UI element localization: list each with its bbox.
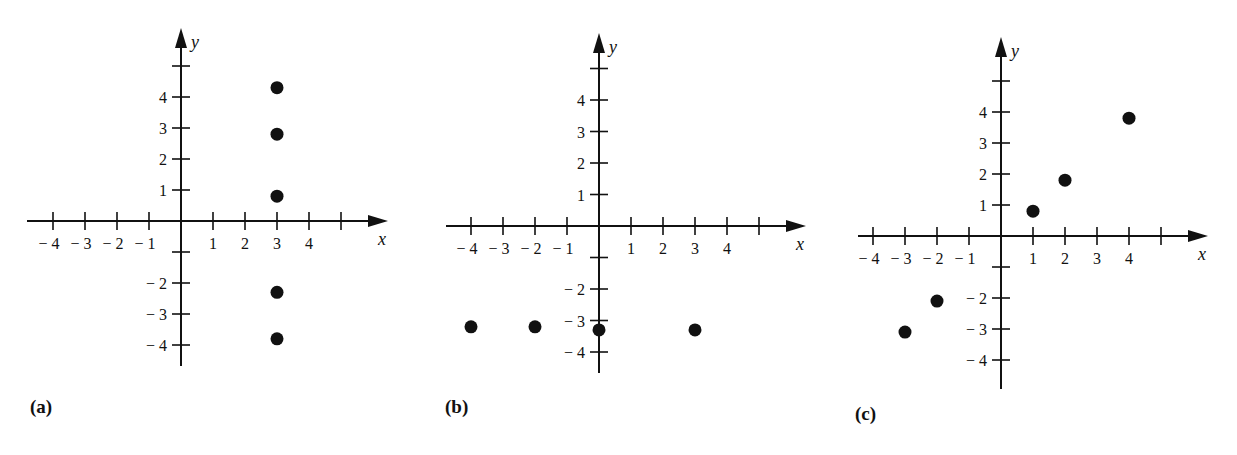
y-tick-label: 1 [159, 182, 167, 199]
y-axis-arrow-icon [995, 37, 1007, 57]
y-axis-arrow-icon [175, 28, 187, 48]
y-tick-label: 2 [577, 155, 585, 172]
x-tick-label: 4 [723, 240, 731, 257]
y-tick-label: − 3 [564, 313, 585, 330]
x-tick-label: − 1 [954, 250, 975, 267]
y-axis-arrow-icon [593, 33, 605, 53]
y-tick-label: − 4 [564, 344, 585, 361]
y-tick-label: 3 [979, 135, 987, 152]
x-axis-label: x [377, 229, 386, 249]
data-point [1027, 205, 1040, 218]
y-tick-label: 2 [159, 151, 167, 168]
y-axis-label: y [607, 37, 617, 57]
x-tick-label: 3 [691, 240, 699, 257]
x-tick-label: 1 [1029, 250, 1037, 267]
x-tick-label: 4 [305, 235, 313, 252]
y-tick-label: 2 [979, 166, 987, 183]
y-tick-label: 3 [159, 120, 167, 137]
x-tick-label: 2 [1061, 250, 1069, 267]
y-tick-label: − 4 [146, 337, 167, 354]
y-tick-label: − 3 [146, 306, 167, 323]
data-point [1123, 112, 1136, 125]
panel-b: − 4− 3− 2− 11234− 4− 3− 21234xy(b) [445, 33, 806, 418]
x-tick-label: − 3 [890, 250, 911, 267]
x-axis-arrow-icon [1188, 230, 1208, 242]
data-point [529, 320, 542, 333]
data-point [465, 320, 478, 333]
x-tick-label: − 4 [456, 240, 477, 257]
y-tick-label: 4 [577, 92, 585, 109]
y-tick-label: − 2 [966, 290, 987, 307]
data-point [1059, 174, 1072, 187]
data-point [593, 323, 606, 336]
x-tick-label: − 1 [134, 235, 155, 252]
data-point [271, 128, 284, 141]
y-tick-label: 1 [979, 197, 987, 214]
x-tick-label: 2 [241, 235, 249, 252]
panel-label: (a) [30, 396, 52, 418]
y-tick-label: 1 [577, 187, 585, 204]
x-axis-label: x [1197, 244, 1206, 264]
x-axis-label: x [795, 234, 804, 254]
data-point [271, 190, 284, 203]
y-tick-label: − 2 [146, 275, 167, 292]
data-point [271, 332, 284, 345]
x-axis-arrow-icon [368, 215, 388, 227]
x-tick-label: − 3 [488, 240, 509, 257]
data-point [271, 81, 284, 94]
x-tick-label: 1 [209, 235, 217, 252]
panel-a: − 4− 3− 2− 11234− 4− 3− 21234xy(a) [27, 28, 388, 418]
y-tick-label: 4 [159, 89, 167, 106]
data-point [271, 286, 284, 299]
y-tick-label: 3 [577, 124, 585, 141]
x-tick-label: − 2 [520, 240, 541, 257]
x-tick-label: − 4 [858, 250, 879, 267]
panel-label: (b) [445, 396, 468, 418]
y-axis-label: y [1009, 41, 1019, 61]
y-tick-label: − 2 [564, 281, 585, 298]
x-tick-label: 3 [1093, 250, 1101, 267]
x-tick-label: − 3 [70, 235, 91, 252]
y-tick-label: − 3 [966, 321, 987, 338]
figure: − 4− 3− 2− 11234− 4− 3− 21234xy(a) − 4− … [0, 0, 1237, 455]
panel-c: − 4− 3− 2− 11234− 4− 3− 21234xy(c) [855, 37, 1208, 425]
data-point [931, 295, 944, 308]
x-tick-label: 3 [273, 235, 281, 252]
x-tick-label: 4 [1125, 250, 1133, 267]
data-point [689, 323, 702, 336]
y-tick-label: 4 [979, 104, 987, 121]
x-tick-label: − 1 [552, 240, 573, 257]
x-tick-label: 2 [659, 240, 667, 257]
x-tick-label: − 4 [38, 235, 59, 252]
panel-label: (c) [855, 403, 876, 425]
x-tick-label: 1 [627, 240, 635, 257]
y-tick-label: − 4 [966, 352, 987, 369]
y-axis-label: y [189, 32, 199, 52]
data-point [899, 326, 912, 339]
x-axis-arrow-icon [786, 220, 806, 232]
x-tick-label: − 2 [102, 235, 123, 252]
x-tick-label: − 2 [922, 250, 943, 267]
